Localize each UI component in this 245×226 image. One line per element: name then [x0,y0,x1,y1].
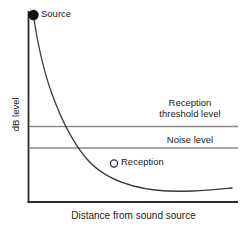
reception-marker-icon [110,160,117,167]
source-label: Source [41,9,71,20]
sound-attenuation-figure: Source Reception Reception threshold lev… [0,0,245,226]
reception-label: Reception [121,157,164,168]
x-axis-title: Distance from sound source [28,210,239,221]
y-axis-title: dB level [11,86,22,142]
reception-threshold-level-label-line2: threshold level [148,109,232,120]
source-marker-icon [28,10,38,20]
noise-level-label: Noise level [148,135,232,146]
reception-threshold-level-label: Reception threshold level [148,98,232,119]
